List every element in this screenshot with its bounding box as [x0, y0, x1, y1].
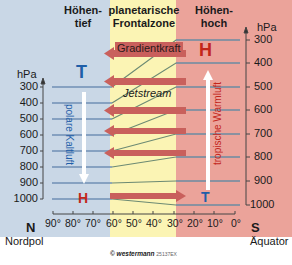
lat-tick: 50°: [126, 217, 142, 229]
lat-tick: 0°: [231, 217, 241, 229]
left-axis-tick: 300: [12, 80, 38, 92]
south-letter: S: [251, 220, 260, 235]
lat-tick: 10°: [207, 217, 223, 229]
right-axis-tick: 700: [254, 127, 272, 139]
left-axis-tick: 800: [12, 160, 38, 172]
header-tropical: Höhen- hoch: [186, 4, 242, 30]
lat-tick: 40°: [146, 217, 162, 229]
latitude-axis: [53, 211, 235, 214]
left-axis-tick: 400: [12, 96, 38, 108]
right-axis-tick: 1000: [250, 198, 274, 210]
tropical-air-label: tropische Warmluft: [212, 82, 223, 165]
equator-label: Äquator: [250, 235, 289, 247]
header-polar-line1: Höhen-: [52, 4, 114, 17]
lat-tick: 30°: [167, 217, 183, 229]
credit-code: 25137EX: [156, 251, 177, 257]
upper-low-T: T: [76, 62, 87, 83]
north-letter: N: [26, 220, 35, 235]
right-pressure-axis: [244, 27, 250, 205]
header-polar: Höhen- tief: [52, 4, 114, 30]
left-axis-unit: hPa: [17, 68, 37, 80]
header-tropical-line1: Höhen-: [186, 4, 242, 17]
north-pole-label: Nordpol: [5, 235, 44, 247]
credit: © westermann 25137EX: [110, 250, 177, 257]
surface-high-H: H: [78, 190, 88, 206]
lat-tick: 60°: [106, 217, 122, 229]
left-axis-tick: 1000: [6, 192, 38, 204]
left-axis-tick: 500: [12, 112, 38, 124]
left-axis-tick: 700: [12, 144, 38, 156]
lat-tick: 20°: [187, 217, 203, 229]
right-axis-tick: 400: [254, 56, 272, 68]
polar-air-label: polare Kaltluft: [64, 104, 75, 165]
header-front: planetarische Frontalzone: [108, 4, 180, 30]
header-front-line1: planetarische: [108, 4, 180, 17]
gradient-force-label: Gradientkraft: [115, 42, 183, 54]
right-axis-tick: 500: [254, 80, 272, 92]
header-front-line2: Frontalzone: [108, 17, 180, 30]
left-axis-tick: 900: [12, 176, 38, 188]
credit-brand: © westermann: [110, 250, 155, 257]
surface-low-T: T: [201, 189, 210, 205]
left-axis-tick: 600: [12, 128, 38, 140]
right-axis-tick: 300: [254, 33, 272, 45]
right-axis-unit: hPa: [257, 21, 277, 33]
left-pressure-axis: [40, 78, 45, 199]
lat-tick: 80°: [65, 217, 81, 229]
upper-high-H: H: [199, 40, 212, 61]
right-axis-tick: 600: [254, 103, 272, 115]
polar-air-arrow: [79, 92, 89, 184]
gradient-force-arrows: [104, 47, 186, 202]
lat-tick: 90°: [45, 217, 61, 229]
jetstream-label: Jetstream: [123, 87, 171, 99]
header-polar-line2: tief: [52, 17, 114, 30]
right-axis-tick: 900: [254, 174, 272, 186]
lat-tick: 70°: [85, 217, 101, 229]
right-axis-tick: 800: [254, 150, 272, 162]
header-tropical-line2: hoch: [186, 17, 242, 30]
